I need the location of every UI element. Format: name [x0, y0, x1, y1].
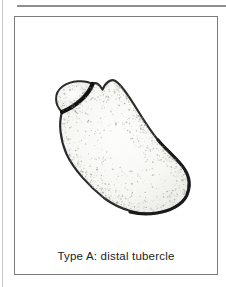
bone-illustration — [0, 0, 226, 287]
figure-caption: Type A: distal tubercle — [14, 250, 218, 262]
